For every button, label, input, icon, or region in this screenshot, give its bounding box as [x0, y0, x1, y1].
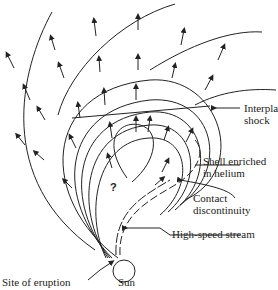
- eruption-diagram: [0, 0, 278, 290]
- outer-field-line: [24, 12, 95, 250]
- high-speed-stream-line: [116, 180, 170, 255]
- label-line: Contact: [193, 192, 250, 204]
- label-shell-helium: Shell enriched in helium: [203, 155, 266, 179]
- outer-field-line: [58, 4, 175, 115]
- unknown-mark: ?: [110, 181, 117, 193]
- label-line: Interplanetary: [244, 102, 278, 114]
- label-line: discontinuity: [193, 204, 250, 216]
- eruption-pointer: [88, 262, 112, 280]
- label-sun: Sun: [118, 276, 135, 288]
- outer-field-line: [150, 32, 262, 70]
- label-contact-discontinuity: Contact discontinuity: [193, 192, 250, 216]
- label-line: in helium: [203, 167, 266, 179]
- label-site-of-eruption: Site of eruption: [2, 276, 70, 288]
- inner-loop: [114, 124, 154, 182]
- label-high-speed-stream: High-speed stream: [172, 228, 255, 240]
- label-line: shock: [244, 114, 278, 126]
- label-interplanetary-shock: Interplanetary shock: [244, 102, 278, 126]
- loop: [96, 138, 183, 258]
- label-line: Shell enriched: [203, 155, 266, 167]
- shock-line: [72, 106, 210, 118]
